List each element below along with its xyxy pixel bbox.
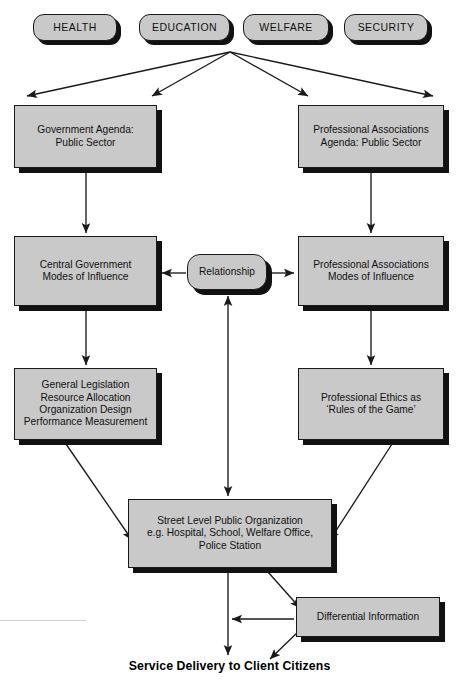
node-professional-ethics[interactable]: Professional Ethics as ‘Rules of the Gam… xyxy=(298,368,444,440)
page-rule xyxy=(0,620,86,621)
node-professional-ethics-label: Professional Ethics as ‘Rules of the Gam… xyxy=(299,392,443,417)
sector-pill-education-label: EDUCATION xyxy=(140,21,229,34)
node-street-level-public-organization[interactable]: Street Level Public Organization e.g. Ho… xyxy=(128,499,332,568)
diagram-canvas: HEALTH EDUCATION WELFARE SECURITY Govern… xyxy=(0,0,459,680)
sector-pill-health-label: HEALTH xyxy=(34,21,116,34)
node-relationship[interactable]: Relationship xyxy=(187,254,267,290)
node-professional-associations-agenda-label: Professional Associations Agenda: Public… xyxy=(299,124,443,149)
node-general-legislation[interactable]: General Legislation Resource Allocation … xyxy=(14,368,157,440)
sector-pill-welfare[interactable]: WELFARE xyxy=(243,14,329,41)
node-government-agenda[interactable]: Government Agenda: Public Sector xyxy=(14,105,157,168)
sector-pill-education[interactable]: EDUCATION xyxy=(139,14,230,41)
sector-pill-security[interactable]: SECURITY xyxy=(344,14,428,41)
node-central-government-modes[interactable]: Central Government Modes of Influence xyxy=(14,236,157,306)
node-professional-associations-modes[interactable]: Professional Associations Modes of Influ… xyxy=(298,236,444,306)
footer-caption: Service Delivery to Client Citizens xyxy=(0,659,459,673)
node-central-government-modes-label: Central Government Modes of Influence xyxy=(15,259,156,284)
sector-pill-health[interactable]: HEALTH xyxy=(33,14,117,41)
node-professional-associations-modes-label: Professional Associations Modes of Influ… xyxy=(299,259,443,284)
node-general-legislation-label: General Legislation Resource Allocation … xyxy=(15,379,156,429)
node-differential-information[interactable]: Differential Information xyxy=(296,597,440,637)
diagram-edges xyxy=(0,0,459,680)
node-government-agenda-label: Government Agenda: Public Sector xyxy=(15,124,156,149)
sector-pill-security-label: SECURITY xyxy=(345,21,427,34)
node-professional-associations-agenda[interactable]: Professional Associations Agenda: Public… xyxy=(298,105,444,168)
node-street-level-public-organization-label: Street Level Public Organization e.g. Ho… xyxy=(129,515,331,552)
node-relationship-label: Relationship xyxy=(188,266,266,278)
sector-pill-welfare-label: WELFARE xyxy=(244,21,328,34)
node-differential-information-label: Differential Information xyxy=(297,611,439,623)
